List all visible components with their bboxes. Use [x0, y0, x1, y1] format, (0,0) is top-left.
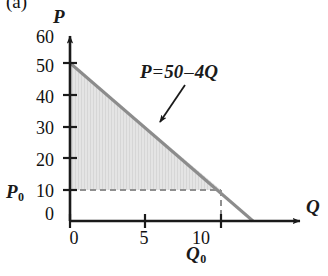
demand-equation-arrow	[160, 85, 185, 122]
consumer-surplus-figure: (a) P Q 60 50 40 30 20 10 0 0 5 10 P0 Q0…	[0, 0, 328, 276]
plot-canvas	[0, 0, 328, 276]
